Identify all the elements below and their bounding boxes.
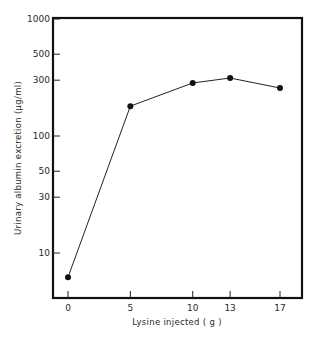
plot-frame	[53, 18, 302, 298]
x-axis-ticks: 05101317	[65, 291, 286, 313]
y-tick-label: 1000	[27, 14, 50, 24]
x-tick-label: 5	[127, 303, 133, 313]
y-tick-label: 30	[39, 192, 51, 202]
data-markers	[65, 75, 283, 280]
x-tick-label: 10	[187, 303, 199, 313]
y-tick-label: 100	[33, 131, 50, 141]
x-tick-label: 13	[224, 303, 235, 313]
data-line	[68, 78, 280, 277]
y-tick-label: 300	[33, 75, 50, 85]
data-point	[277, 85, 283, 91]
data-point	[227, 75, 233, 81]
data-point	[190, 80, 196, 86]
x-tick-label: 0	[65, 303, 71, 313]
y-axis-label: Urinary albumin excretion (μg/ml)	[13, 81, 23, 235]
y-axis-ticks: 1000500300100503010	[27, 14, 60, 258]
y-tick-label: 500	[33, 49, 50, 59]
y-tick-label: 50	[39, 166, 51, 176]
y-tick-label: 10	[39, 248, 51, 258]
data-point	[65, 274, 71, 280]
x-axis-label: Lysine injected ( g )	[132, 317, 222, 327]
chart: 1000500300100503010 05101317 Lysine inje…	[0, 0, 315, 339]
x-tick-label: 17	[274, 303, 285, 313]
data-point	[127, 103, 133, 109]
